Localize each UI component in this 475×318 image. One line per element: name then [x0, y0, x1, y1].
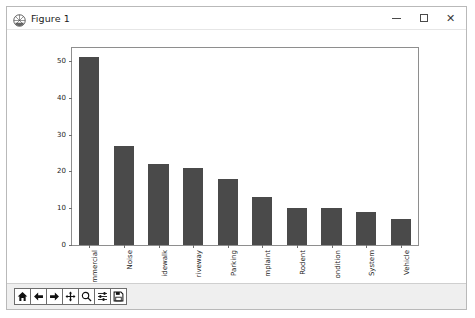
y-axis-tick-label: 40 — [57, 94, 66, 101]
forward-button[interactable] — [46, 288, 63, 305]
y-axis-tick — [69, 208, 72, 209]
x-axis-tick-label: ondition — [335, 250, 342, 279]
screen: Figure 1 ✕ 01020304050mmercialNoiseidewa… — [0, 0, 475, 318]
maximize-icon — [420, 14, 428, 22]
y-axis-tick — [69, 245, 72, 246]
x-axis-tick — [332, 245, 333, 248]
bar — [148, 164, 168, 245]
y-axis-tick-label: 50 — [57, 57, 66, 64]
arrow-left-icon — [33, 291, 44, 302]
x-axis-tick-label: idewalk — [162, 250, 169, 277]
y-axis-tick — [69, 135, 72, 136]
x-axis-tick-label: System — [369, 250, 376, 276]
x-axis-tick-label: mmercial — [92, 250, 99, 283]
x-axis-tick — [193, 245, 194, 248]
x-axis-tick-label: mplaint — [265, 250, 272, 277]
y-axis-tick-label: 20 — [57, 168, 66, 175]
x-axis-tick-label: Rodent — [300, 250, 307, 275]
minimize-icon — [392, 18, 401, 19]
matplotlib-icon — [13, 12, 26, 25]
y-axis-tick-label: 10 — [57, 205, 66, 212]
close-button[interactable]: ✕ — [437, 7, 464, 29]
move-cross-icon — [65, 291, 76, 302]
configure-subplots-button[interactable] — [94, 288, 111, 305]
y-axis-tick — [69, 171, 72, 172]
toolbar-button-group — [14, 288, 126, 305]
x-axis-tick — [228, 245, 229, 248]
x-axis-tick — [124, 245, 125, 248]
x-axis-tick — [89, 245, 90, 248]
x-axis-tick-label: Parking — [231, 250, 238, 276]
navigation-toolbar — [7, 283, 466, 309]
x-axis-tick-label: Vehicle — [404, 250, 411, 275]
x-axis-tick — [159, 245, 160, 248]
bar — [79, 57, 99, 245]
home-button[interactable] — [14, 288, 31, 305]
y-axis-tick-label: 0 — [62, 242, 66, 249]
title-bar: Figure 1 ✕ — [7, 7, 466, 30]
bar — [356, 212, 376, 245]
window-title: Figure 1 — [31, 13, 383, 24]
bar — [287, 208, 307, 245]
figure-window: Figure 1 ✕ 01020304050mmercialNoiseidewa… — [6, 6, 467, 310]
figure-canvas[interactable]: 01020304050mmercialNoiseidewalkrivewayPa… — [7, 30, 466, 283]
bar — [218, 179, 238, 245]
sliders-icon — [97, 291, 108, 302]
x-axis-tick-label: Noise — [127, 250, 134, 269]
y-axis-tick — [69, 98, 72, 99]
home-icon — [17, 291, 28, 302]
back-button[interactable] — [30, 288, 47, 305]
x-axis-tick — [366, 245, 367, 248]
bar — [114, 146, 134, 245]
minimize-button[interactable] — [383, 7, 410, 29]
floppy-disk-icon — [113, 291, 124, 302]
close-icon: ✕ — [446, 13, 455, 24]
x-axis-tick — [262, 245, 263, 248]
maximize-button[interactable] — [410, 7, 437, 29]
magnifier-icon — [81, 291, 92, 302]
x-axis-tick — [401, 245, 402, 248]
y-axis-tick-label: 30 — [57, 131, 66, 138]
bar — [183, 168, 203, 245]
window-controls: ✕ — [383, 7, 464, 29]
pan-button[interactable] — [62, 288, 79, 305]
zoom-button[interactable] — [78, 288, 95, 305]
save-button[interactable] — [110, 288, 127, 305]
bar-chart-axes[interactable]: 01020304050mmercialNoiseidewalkrivewayPa… — [71, 47, 419, 246]
bar — [252, 197, 272, 245]
bar — [391, 219, 411, 245]
bar — [321, 208, 341, 245]
x-axis-tick — [297, 245, 298, 248]
x-axis-tick-label: riveway — [196, 250, 203, 277]
arrow-right-icon — [49, 291, 60, 302]
y-axis-tick — [69, 61, 72, 62]
